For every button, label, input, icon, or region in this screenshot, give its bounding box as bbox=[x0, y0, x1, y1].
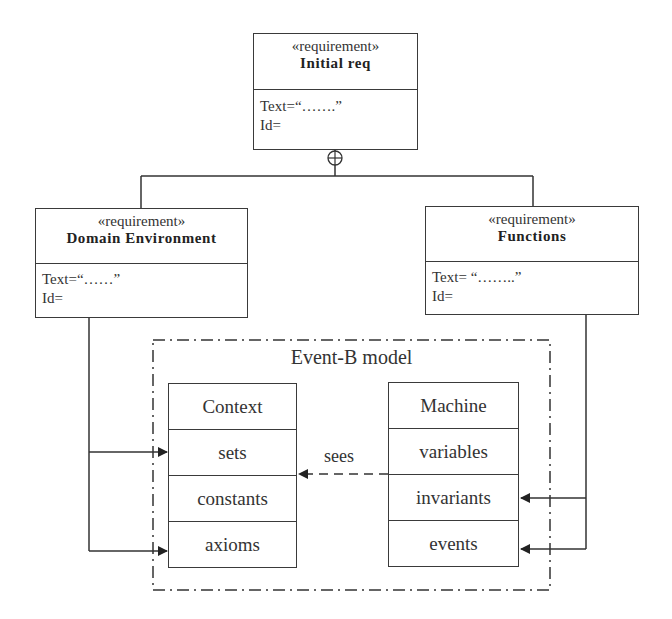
event-b-model-title: Event-B model bbox=[153, 346, 550, 369]
requirement-text: Text=“……” bbox=[42, 270, 241, 289]
machine-header: Machine bbox=[389, 383, 518, 429]
machine-invariants[interactable]: invariants bbox=[389, 475, 518, 521]
context-axioms[interactable]: axioms bbox=[169, 522, 296, 567]
requirement-text: Text=“…….” bbox=[260, 97, 411, 116]
requirement-initial-req[interactable]: «requirement» Initial req Text=“…….” Id= bbox=[253, 33, 418, 150]
context-sets[interactable]: sets bbox=[169, 430, 296, 476]
requirement-name: Initial req bbox=[254, 55, 417, 72]
machine-box[interactable]: Machine variables invariants events bbox=[388, 382, 519, 567]
requirement-text: Text= “……..” bbox=[432, 268, 632, 287]
sees-label: sees bbox=[324, 446, 354, 467]
stereotype-label: «requirement» bbox=[254, 38, 417, 55]
requirement-name: Functions bbox=[426, 228, 638, 245]
requirement-name: Domain Environment bbox=[36, 230, 247, 247]
requirement-id: Id= bbox=[260, 116, 411, 135]
context-constants[interactable]: constants bbox=[169, 476, 296, 522]
machine-variables[interactable]: variables bbox=[389, 429, 518, 475]
context-header: Context bbox=[169, 384, 296, 430]
context-box[interactable]: Context sets constants axioms bbox=[168, 383, 297, 568]
requirement-domain-environment[interactable]: «requirement» Domain Environment Text=“…… bbox=[35, 208, 248, 318]
stereotype-label: «requirement» bbox=[426, 211, 638, 228]
requirement-id: Id= bbox=[42, 289, 241, 308]
stereotype-label: «requirement» bbox=[36, 213, 247, 230]
requirement-id: Id= bbox=[432, 287, 632, 306]
machine-events[interactable]: events bbox=[389, 521, 518, 566]
requirement-functions[interactable]: «requirement» Functions Text= “……..” Id= bbox=[425, 206, 639, 315]
